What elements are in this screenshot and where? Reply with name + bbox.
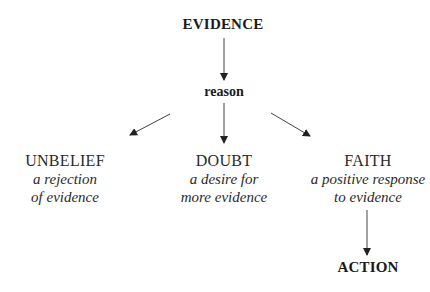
node-unbelief-desc-line2: of evidence: [25, 188, 105, 206]
diagram-canvas: EVIDENCE reason UNBELIEF a rejection of …: [0, 0, 430, 292]
node-unbelief-title: UNBELIEF: [25, 152, 105, 170]
node-unbelief-desc-line1: a rejection: [25, 170, 105, 188]
node-faith-desc-line2: to evidence: [311, 188, 425, 206]
node-faith-desc-line1: a positive response: [311, 170, 425, 188]
node-faith: FAITH a positive response to evidence: [311, 152, 425, 206]
node-doubt-title: DOUBT: [181, 152, 267, 170]
arrows-layer: [0, 0, 430, 292]
node-faith-title: FAITH: [311, 152, 425, 170]
node-evidence: EVIDENCE: [183, 16, 264, 33]
node-doubt-desc-line2: more evidence: [181, 188, 267, 206]
node-unbelief: UNBELIEF a rejection of evidence: [25, 152, 105, 206]
arrow-reason-to-unbelief: [130, 114, 170, 135]
node-doubt-desc-line1: a desire for: [181, 170, 267, 188]
node-action: ACTION: [337, 259, 398, 276]
node-reason: reason: [204, 84, 243, 100]
arrow-reason-to-faith: [271, 113, 310, 136]
node-doubt: DOUBT a desire for more evidence: [181, 152, 267, 206]
